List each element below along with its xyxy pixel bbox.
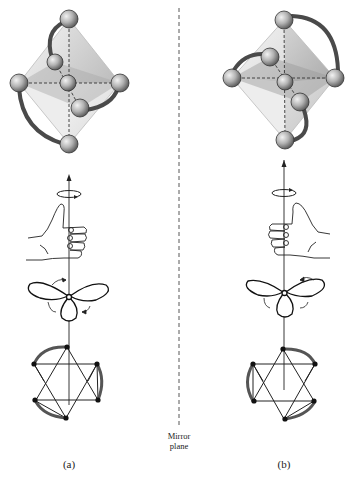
panel-a-triangle-projection-icon: [31, 344, 101, 420]
panel-a-propeller-icon: [28, 283, 108, 322]
panel-a-octahedron: [10, 10, 129, 153]
panel-b-octahedron: [223, 11, 344, 149]
mirror-label-line2: plane: [159, 441, 199, 451]
panel-a-thumb-hand-icon: [26, 204, 87, 260]
panel-a-label: (a): [56, 458, 82, 470]
panel-b-triangle-projection-icon: [248, 346, 318, 421]
mirror-plane-label: Mirror plane: [159, 431, 199, 451]
panel-b-rotation-axis: [282, 160, 287, 390]
panel-b-propeller-icon: [246, 279, 324, 317]
chirality-figure: [0, 0, 359, 490]
panel-b-thumb-hand-icon: [269, 203, 331, 258]
panel-b-label: (b): [271, 458, 297, 470]
panel-a-rotation-axis: [67, 174, 72, 405]
mirror-label-line1: Mirror: [159, 431, 199, 441]
